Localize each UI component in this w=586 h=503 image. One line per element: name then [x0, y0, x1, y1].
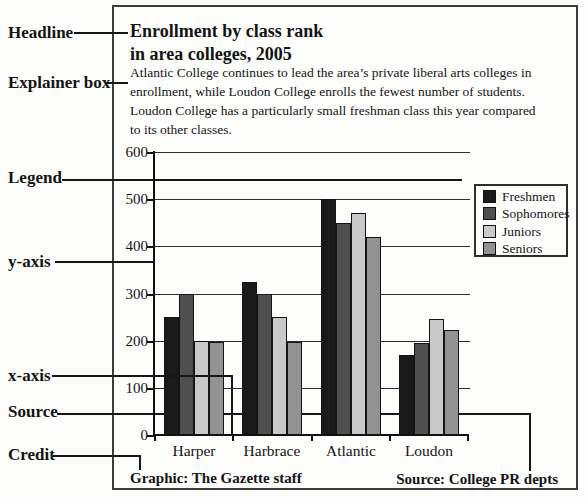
annotation-legend: Legend: [8, 169, 62, 187]
bar-harbrace-seniors: [287, 342, 302, 435]
annotation-line-credit: [53, 455, 141, 457]
gridline-600: [155, 152, 470, 153]
legend-item-seniors: Seniors: [476, 241, 566, 258]
bar-harbrace-freshmen: [242, 282, 257, 435]
bar-harbrace-sophomores: [257, 294, 272, 436]
bar-harper-juniors: [194, 341, 209, 435]
legend-item-freshmen: Freshmen: [476, 189, 566, 206]
freshmen-swatch: [483, 190, 496, 203]
x-tick-1: [232, 436, 234, 441]
y-tick-label-400: 400: [108, 238, 148, 254]
bar-harper-seniors: [209, 342, 224, 435]
bar-loudon-freshmen: [399, 355, 414, 435]
annotation-headline: Headline: [8, 24, 73, 42]
x-axis-label-loudon: Loudon: [390, 443, 468, 459]
seniors-swatch: [483, 242, 496, 255]
y-tick-label-100: 100: [108, 380, 148, 396]
bar-atlantic-seniors: [366, 237, 381, 435]
x-tick-end: [467, 436, 469, 441]
annotation-line-y-axis: [55, 261, 155, 263]
legend-label-seniors: Seniors: [502, 241, 543, 257]
annotation-y-axis: y-axis: [8, 253, 51, 271]
sophomores-swatch: [483, 207, 496, 220]
bar-loudon-seniors: [444, 330, 459, 435]
x-axis-label-harbrace: Harbrace: [233, 443, 311, 459]
bar-atlantic-sophomores: [336, 223, 351, 435]
legend-label-juniors: Juniors: [502, 224, 541, 240]
y-axis-line: [153, 151, 155, 436]
gridline-500: [155, 199, 470, 200]
annotation-explainer-box: Explainer box: [8, 74, 110, 92]
annotation-line-source-v: [529, 413, 531, 471]
x-tick-3: [389, 436, 391, 441]
y-tick-label-0: 0: [108, 427, 148, 443]
bar-harper-sophomores: [179, 294, 194, 436]
annotation-line-credit-v: [139, 455, 141, 470]
bar-harbrace-juniors: [272, 317, 287, 435]
annotation-x-axis: x-axis: [8, 367, 51, 385]
x-tick-0: [154, 436, 156, 441]
annotation-line-x-axis-v: [231, 375, 233, 436]
bar-atlantic-freshmen: [321, 199, 336, 435]
x-tick-2: [311, 436, 313, 441]
legend-item-sophomores: Sophomores: [476, 206, 566, 223]
y-tick-label-600: 600: [108, 144, 148, 160]
annotation-line-headline: [74, 32, 128, 34]
legend-label-freshmen: Freshmen: [502, 189, 555, 205]
x-axis-label-atlantic: Atlantic: [312, 443, 390, 459]
y-tick-label-300: 300: [108, 286, 148, 302]
bar-loudon-sophomores: [414, 343, 429, 435]
legend-item-juniors: Juniors: [476, 224, 566, 241]
juniors-swatch: [483, 225, 496, 238]
annotation-source: Source: [8, 403, 58, 421]
y-tick-label-500: 500: [108, 191, 148, 207]
bar-loudon-juniors: [429, 319, 444, 435]
annotation-credit: Credit: [8, 446, 55, 464]
legend-box: FreshmenSophomoresJuniorsSeniors: [474, 184, 568, 257]
bar-atlantic-juniors: [351, 213, 366, 435]
y-tick-label-200: 200: [108, 333, 148, 349]
gridline-300: [155, 294, 470, 295]
annotation-line-x-axis: [52, 375, 233, 377]
annotation-line-legend: [62, 179, 462, 181]
legend-label-sophomores: Sophomores: [502, 206, 570, 222]
gridline-400: [155, 246, 470, 247]
annotation-line-explainer: [105, 82, 128, 84]
x-axis-label-harper: Harper: [155, 443, 233, 459]
